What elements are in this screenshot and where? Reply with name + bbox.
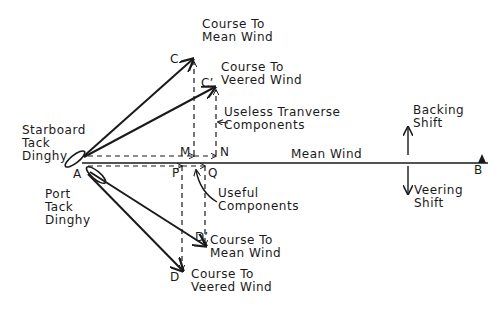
point-q-label: Q — [208, 166, 217, 180]
label-port-tack-dinghy: Port Tack Dinghy — [45, 188, 91, 227]
point-d-prime-label: D’ — [195, 230, 208, 244]
label-starboard-tack-dinghy: Starboard Tack Dinghy — [22, 124, 86, 163]
point-c-label: C — [170, 52, 178, 66]
point-p-label: P — [172, 166, 179, 180]
wind-source-b-arrowhead — [478, 154, 486, 163]
label-course-veered-wind-bottom: Course To Veered Wind — [191, 268, 272, 294]
label-course-mean-wind-top: Course To Mean Wind — [202, 18, 273, 44]
label-useful-components: Useful Components — [218, 187, 299, 213]
label-backing-shift: Backing Shift — [413, 104, 464, 130]
point-m-label: M — [180, 145, 190, 159]
point-a-label: A — [73, 167, 81, 181]
label-useless-components: Useless Tranverse Components — [224, 106, 340, 132]
point-c-prime-label: C’ — [201, 76, 213, 90]
point-b-label: B — [474, 163, 482, 177]
point-d-label: D — [170, 270, 179, 284]
label-course-mean-wind-bottom: Course To Mean Wind — [210, 234, 281, 260]
point-n-label: N — [220, 145, 229, 159]
label-mean-wind: Mean Wind — [291, 148, 362, 161]
label-veering-shift: Veering Shift — [414, 184, 463, 210]
label-course-veered-wind-top: Course To Veered Wind — [221, 61, 302, 87]
